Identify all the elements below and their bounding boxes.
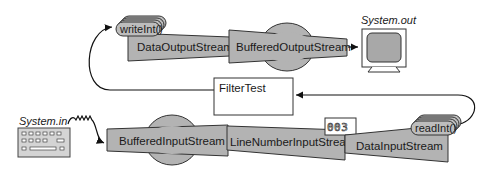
readint-method: readInt() [411, 115, 461, 135]
keyboard-icon [18, 128, 70, 157]
keyboard-cord [68, 116, 104, 143]
system-out-label: System.out [361, 14, 417, 26]
line-counter-display: 003 [325, 118, 356, 135]
monitor-icon [362, 29, 406, 72]
writeint-label: writeInt() [119, 23, 163, 35]
buffered-output-stream-label: BufferedOutputStream [236, 41, 351, 53]
buffered-output-stream: BufferedOutputStream [229, 23, 351, 71]
buffered-input-stream-label: BufferedInputStream [119, 135, 225, 147]
stream-diagram: DataOutputStream BufferedOutputStream wr… [0, 0, 494, 172]
data-output-stream: DataOutputStream [128, 33, 233, 61]
line-counter-value: 003 [327, 121, 348, 134]
writeint-method: writeInt() [116, 16, 166, 36]
data-output-stream-label: DataOutputStream [137, 41, 233, 53]
line-number-input-stream: LineNumberInputStream 003 [227, 118, 356, 160]
system-out: System.out [361, 14, 417, 72]
line-number-input-stream-label: LineNumberInputStream [230, 136, 355, 148]
data-input-stream-label: DataInputStream [356, 140, 443, 152]
readint-label: readInt() [415, 122, 457, 134]
filter-test-box: FilterTest [214, 78, 293, 115]
system-in: System.in [18, 115, 104, 157]
system-in-label: System.in [19, 115, 67, 127]
filter-test-label: FilterTest [219, 82, 266, 94]
buffered-input-stream: BufferedInputStream [107, 115, 228, 165]
